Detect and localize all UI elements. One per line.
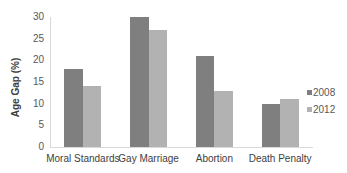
legend-item: 2012 (307, 101, 335, 118)
y-tick-label: 10 (24, 98, 44, 109)
bar-2012 (149, 30, 168, 147)
bar-2008 (130, 17, 149, 147)
bar-chart: Age Gap (%) 051015202530 Moral Standards… (0, 0, 347, 173)
y-axis-line (50, 17, 51, 147)
bar-2008 (196, 56, 215, 147)
legend-label: 2008 (313, 87, 335, 98)
bar-2012 (280, 99, 299, 147)
bar-2008 (64, 69, 83, 147)
legend-item: 2008 (307, 84, 335, 101)
y-tick-label: 20 (24, 54, 44, 65)
legend-swatch-icon (307, 107, 312, 112)
legend-swatch-icon (307, 90, 312, 95)
x-tick-label: Death Penalty (240, 153, 320, 164)
bar-2012 (83, 86, 102, 147)
legend: 20082012 (307, 84, 335, 118)
bar-2012 (214, 91, 233, 147)
y-axis-label: Age Gap (%) (10, 53, 21, 123)
y-tick-label: 15 (24, 76, 44, 87)
y-tick-label: 30 (24, 11, 44, 22)
y-tick-label: 25 (24, 33, 44, 44)
x-axis-line (50, 147, 313, 148)
y-tick-label: 5 (24, 119, 44, 130)
bar-2008 (262, 104, 281, 147)
legend-label: 2012 (313, 104, 335, 115)
y-tick-label: 0 (24, 141, 44, 152)
